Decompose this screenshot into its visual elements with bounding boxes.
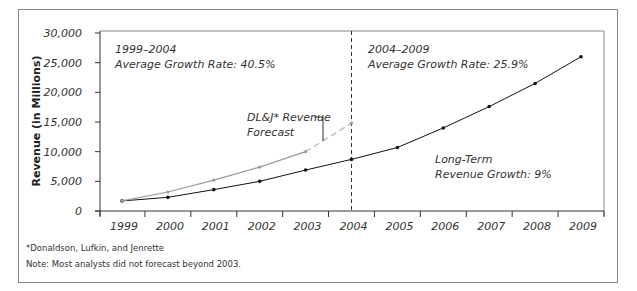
chart-labels: 05,00010,00015,00020,00025,00030,000Reve… bbox=[30, 27, 597, 233]
revenue-point-2000 bbox=[166, 196, 170, 200]
annotation-1999-2004-line-1: Average Growth Rate: 40.5% bbox=[114, 58, 275, 71]
revenue-point-2003 bbox=[304, 168, 308, 172]
revenue-point-2005 bbox=[396, 146, 400, 150]
x-tick-label: 2003 bbox=[294, 220, 322, 233]
forecast-point-2000 bbox=[166, 190, 169, 193]
x-tick-label: 2009 bbox=[569, 220, 597, 233]
x-tick-label: 2006 bbox=[431, 220, 459, 233]
forecast-point-2003 bbox=[304, 150, 307, 153]
forecast-series-line bbox=[122, 152, 306, 201]
x-tick-label: 2007 bbox=[477, 220, 505, 233]
y-tick-label: 25,000 bbox=[44, 57, 83, 70]
revenue-point-2006 bbox=[442, 126, 446, 130]
x-tick-label: 1999 bbox=[110, 220, 138, 233]
annotation-long-term-line-1: Revenue Growth: 9% bbox=[435, 168, 552, 181]
x-tick-label: 2008 bbox=[523, 220, 551, 233]
y-tick-label: 0 bbox=[75, 205, 82, 218]
revenue-point-2002 bbox=[258, 180, 262, 184]
x-tick-label: 2002 bbox=[248, 220, 276, 233]
annotation-1999-2004-line-0: 1999–2004 bbox=[115, 43, 177, 56]
revenue-point-2004 bbox=[350, 158, 354, 162]
x-tick-label: 2005 bbox=[385, 220, 413, 233]
y-tick-label: 5,000 bbox=[51, 175, 83, 188]
annotation-2004-2009-line-1: Average Growth Rate: 25.9% bbox=[367, 58, 528, 71]
forecast-series-dashed-line bbox=[306, 123, 352, 151]
forecast-point-2002 bbox=[258, 165, 261, 168]
forecast-point-2004 bbox=[350, 122, 353, 125]
y-tick-label: 10,000 bbox=[44, 146, 83, 159]
revenue-point-2009 bbox=[579, 55, 583, 59]
revenue-point-2001 bbox=[212, 188, 216, 192]
x-tick-label: 2004 bbox=[340, 220, 368, 233]
y-tick-label: 15,000 bbox=[44, 116, 83, 129]
annotation-forecast-line-1: Forecast bbox=[247, 126, 295, 139]
annotation-long-term-line-0: Long-Term bbox=[435, 153, 492, 166]
forecast-point-1999 bbox=[120, 199, 123, 202]
footnote-dlj: *Donaldson, Lufkin, and Jenrette bbox=[26, 243, 164, 253]
revenue-point-2008 bbox=[533, 82, 537, 86]
x-tick-label: 2000 bbox=[156, 220, 184, 233]
y-tick-label: 30,000 bbox=[44, 27, 83, 40]
annotation-forecast-line-0: DL&J* Revenue bbox=[247, 111, 331, 124]
footnote-note: Note: Most analysts did not forecast bey… bbox=[26, 259, 241, 269]
forecast-point-2001 bbox=[212, 179, 215, 182]
annotation-2004-2009-line-0: 2004–2009 bbox=[368, 43, 430, 56]
x-tick-label: 2001 bbox=[202, 220, 230, 233]
y-tick-label: 20,000 bbox=[44, 86, 83, 99]
revenue-point-2007 bbox=[487, 105, 491, 109]
y-axis-label: Revenue (in Millions) bbox=[30, 56, 43, 187]
